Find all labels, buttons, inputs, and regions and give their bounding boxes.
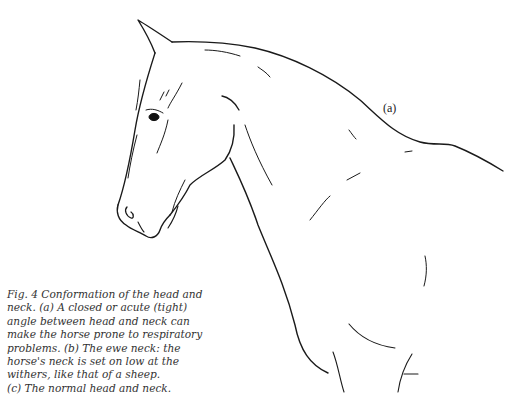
ear-outline bbox=[138, 20, 172, 53]
face-detail-lines bbox=[128, 80, 182, 178]
caption-line: problems. (b) The ewe neck: the bbox=[7, 342, 247, 355]
caption-line: withers, like that of a sheep. bbox=[7, 368, 247, 381]
cheek-curve bbox=[222, 96, 239, 110]
neck-crest-outline bbox=[172, 42, 503, 171]
mouth-line bbox=[138, 222, 144, 232]
caption-line: horse's neck is set on low at the bbox=[7, 355, 247, 368]
eye bbox=[149, 113, 159, 120]
nostril bbox=[126, 207, 134, 218]
figure-label-a: (a) bbox=[383, 101, 396, 116]
caption-line: (c) The normal head and neck. bbox=[7, 382, 247, 395]
figure-caption: Fig. 4 Conformation of the head and neck… bbox=[7, 288, 247, 395]
caption-line: angle between head and neck can bbox=[7, 315, 247, 328]
caption-line: make the horse prone to respiratory bbox=[7, 328, 247, 341]
eyelid-line bbox=[146, 109, 163, 113]
shoulder-lines bbox=[333, 324, 418, 392]
neck-detail-lines bbox=[245, 125, 426, 286]
crest-detail-lines bbox=[205, 50, 270, 77]
caption-line: Fig. 4 Conformation of the head and bbox=[7, 288, 247, 301]
face-profile-outline bbox=[118, 53, 155, 205]
brow-marks bbox=[160, 90, 169, 100]
caption-line: neck. (a) A closed or acute (tight) bbox=[7, 301, 247, 314]
jaw-outline bbox=[170, 125, 234, 215]
